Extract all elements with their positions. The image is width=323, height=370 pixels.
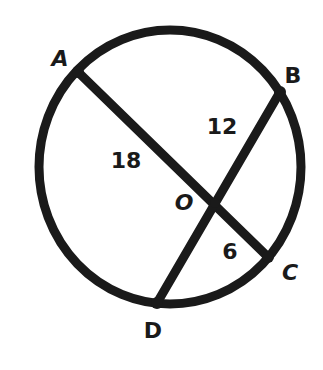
circle-diagram — [0, 0, 323, 370]
segment-label-ao: 18 — [111, 150, 142, 172]
point-label-c: C — [282, 262, 298, 284]
point-label-d: D — [144, 320, 162, 342]
point-label-a: A — [51, 48, 68, 70]
point-o-marker — [210, 198, 220, 208]
point-c-marker — [262, 251, 274, 263]
point-label-b: B — [285, 65, 302, 87]
segment-label-bo: 12 — [207, 116, 238, 138]
point-a-marker — [72, 66, 84, 78]
segment-label-oc: 6 — [222, 241, 237, 263]
point-d-marker — [151, 297, 163, 309]
point-label-o: O — [175, 192, 194, 214]
